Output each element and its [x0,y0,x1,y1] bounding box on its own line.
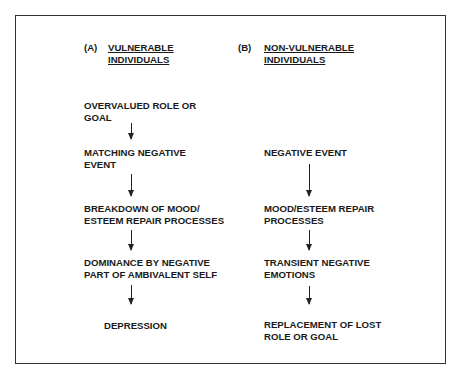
b-step-1-line1: NEGATIVE EVENT [264,146,347,159]
arrow-down-icon [309,230,310,250]
b-step-2-line2: PROCESSES [264,214,324,227]
b-step-3-line2: EMOTIONS [264,268,315,281]
arrow-down-icon [131,230,132,250]
a-step-2-line2: EVENT [84,158,116,171]
a-step-5-line1: DEPRESSION [104,319,167,332]
b-step-4-line2: ROLE OR GOAL [264,330,338,343]
arrow-down-icon [131,285,132,304]
column-a-title-line2: INDIVIDUALS [108,53,169,66]
diagram-frame [15,15,446,364]
arrow-down-icon [131,123,132,139]
arrow-down-icon [309,286,310,304]
column-b-title-line2: INDIVIDUALS [264,53,325,66]
column-b-tag: (B) [238,41,251,54]
a-step-1-line2: GOAL [84,111,112,124]
arrow-down-icon [309,164,310,196]
a-step-4-line2: PART OF AMBIVALENT SELF [84,268,217,281]
arrow-down-icon [131,174,132,196]
a-step-3-line2: ESTEEM REPAIR PROCESSES [84,214,224,227]
column-a-tag: (A) [84,41,97,54]
